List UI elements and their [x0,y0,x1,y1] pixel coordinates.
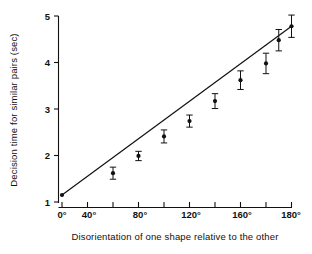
y-tick-label-3: 3 [45,104,50,115]
scatter-plot: 5 4 3 2 1 0° 40° 80° 120° 160° 180° Diso… [0,0,312,254]
data-point [187,119,191,123]
data-point [213,99,217,103]
y-tick-label-2: 2 [45,150,50,161]
data-point [289,24,293,28]
data-point [136,154,140,158]
regression-line [62,26,292,195]
data-point [238,78,242,82]
x-tick-label-180: 180° [281,209,301,220]
x-axis-title: Disorientation of one shape relative to … [72,231,279,242]
data-point [277,38,281,42]
x-tick-label-160: 160° [232,209,252,220]
data-point [111,171,115,175]
y-tick-label-4: 4 [45,57,51,68]
y-axis-title: Decision time for similar pairs (sec) [8,33,19,186]
data-point [60,193,64,197]
y-tick-label-1: 1 [45,197,51,208]
x-tick-label-0: 0° [57,209,66,220]
y-tick-label-5: 5 [45,11,51,22]
x-tick-label-80: 80° [133,209,148,220]
chart-figure: 5 4 3 2 1 0° 40° 80° 120° 160° 180° Diso… [0,0,312,254]
x-tick-label-120: 120° [181,209,201,220]
data-point [162,134,166,138]
data-point [264,61,268,65]
x-tick-label-40: 40° [82,209,97,220]
